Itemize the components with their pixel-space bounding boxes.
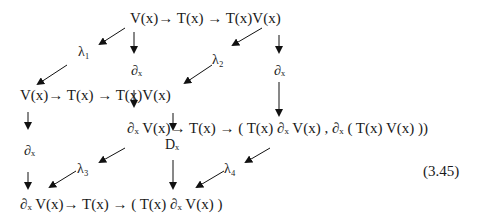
row-inner: ∂ₓ V(x)→ T(x) → ( T(x) ∂ₓ V(x) , ∂ₓ ( T(… bbox=[127, 120, 428, 136]
label-lambda2: λ₂ bbox=[212, 53, 224, 67]
label-lambda1: λ₁ bbox=[78, 45, 90, 59]
arrow-lambda2-upper bbox=[233, 28, 262, 45]
arrow-lambda3-upper bbox=[100, 148, 125, 162]
label-dx-top-left: ∂ₓ bbox=[131, 64, 142, 78]
row-bottom: ∂ₓ V(x)→ T(x) → ( T(x) ∂ₓ V(x) ) bbox=[20, 196, 222, 212]
label-lambda4: λ₄ bbox=[224, 162, 236, 176]
row-mid: V(x)→ T(x) → T(x)V(x) bbox=[20, 87, 171, 103]
arrow-lambda1-lower bbox=[38, 65, 67, 84]
label-lambda3: λ₃ bbox=[77, 162, 89, 176]
equation-number: (3.45) bbox=[423, 163, 459, 179]
arrow-lambda2-lower bbox=[185, 65, 212, 83]
arrows-layer bbox=[0, 0, 484, 223]
arrow-lambda3-lower bbox=[50, 171, 76, 187]
arrow-lambda1-upper bbox=[100, 28, 125, 44]
arrow-lambda4-lower bbox=[197, 171, 224, 187]
label-Dx: Dₓ bbox=[165, 138, 179, 152]
row-top: V(x)→ T(x) → T(x)V(x) bbox=[130, 10, 281, 26]
label-dx-left: ∂ₓ bbox=[24, 144, 35, 158]
arrow-lambda4-upper bbox=[246, 148, 270, 162]
label-dx-top-right: ∂ₓ bbox=[274, 64, 285, 78]
commutative-diagram: V(x)→ T(x) → T(x)V(x) V(x)→ T(x) → T(x)V… bbox=[0, 0, 484, 223]
